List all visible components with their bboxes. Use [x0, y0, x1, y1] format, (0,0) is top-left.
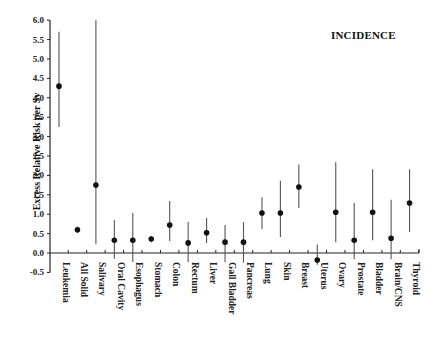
data-point: [148, 236, 154, 242]
x-category-label: Liver: [208, 262, 218, 285]
chart-title: INCIDENCE: [331, 29, 396, 41]
data-point: [93, 182, 99, 188]
data-point: [75, 227, 81, 233]
x-category-label: Lung: [263, 262, 273, 284]
data-point: [407, 200, 413, 206]
x-category-label: Leukemia: [61, 262, 71, 303]
data-point: [370, 209, 376, 215]
x-category-label: Bladder: [374, 262, 384, 296]
x-category-label: Skin: [282, 262, 292, 281]
x-category-label: Brain/CNS: [393, 262, 403, 307]
y-tick-label: 0.0: [33, 248, 45, 258]
data-point: [296, 184, 302, 190]
data-point: [204, 230, 210, 236]
x-category-label: Prostate: [356, 262, 366, 296]
x-category-label: Salivary: [97, 262, 107, 296]
x-category-label: Breast: [300, 262, 310, 289]
y-tick-label: 5.5: [33, 35, 45, 45]
x-category-label: Rectum: [190, 262, 200, 294]
data-point: [167, 222, 173, 228]
x-category-label: Stomach: [153, 262, 163, 298]
data-point: [56, 83, 62, 89]
data-point: [333, 209, 339, 215]
chart-canvas: -0.50.00.51.01.52.02.53.03.54.04.55.05.5…: [0, 0, 440, 349]
y-tick-label: 5.0: [33, 54, 45, 64]
x-category-label: Oral Cavity: [116, 262, 126, 311]
data-point: [241, 239, 247, 245]
x-category-label: Ovary: [337, 262, 347, 288]
y-axis-label: Excess Relative Risk per Sv: [31, 72, 42, 232]
x-category-label: Esophagus: [134, 262, 144, 306]
x-category-label: Uterus: [319, 262, 329, 290]
data-point: [388, 235, 394, 241]
data-point: [112, 237, 118, 243]
data-point: [222, 239, 228, 245]
data-point: [130, 237, 136, 243]
data-point: [351, 237, 357, 243]
x-category-label: All Solid: [79, 262, 89, 298]
y-tick-label: -0.5: [30, 267, 45, 277]
x-category-label: Colon: [171, 262, 181, 287]
data-point: [278, 210, 284, 216]
x-category-label: Thyroid: [411, 262, 421, 296]
x-category-label: Gall Bladder: [227, 262, 237, 315]
data-point: [185, 240, 191, 246]
data-point: [259, 210, 265, 216]
x-category-label: Pancreas: [245, 262, 255, 299]
y-tick-label: 6.0: [33, 15, 45, 25]
